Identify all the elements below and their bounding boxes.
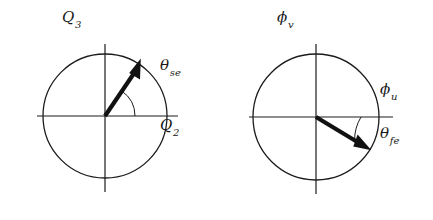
phasor-figure: Q3 Q2 θse ϕv ϕu θfe [0,0,433,220]
right-horizontal-axis-label: ϕu [380,82,397,100]
left-horizontal-axis-label: Q2 [160,118,179,136]
right-vector-arrowhead [353,135,371,151]
left-vector-shaft [105,71,136,116]
right-diagram-canvas [216,0,433,220]
left-angle-arc [122,91,135,116]
left-vertical-axis-label: Q3 [62,10,81,28]
right-vertical-axis-label: ϕv [277,10,293,28]
left-phasor-diagram [0,0,216,220]
left-angle-label: θse [160,58,180,76]
right-angle-label: θfe [380,126,399,144]
right-vector-shaft [316,117,360,143]
right-phasor-diagram [216,0,433,220]
left-diagram-canvas [0,0,216,220]
